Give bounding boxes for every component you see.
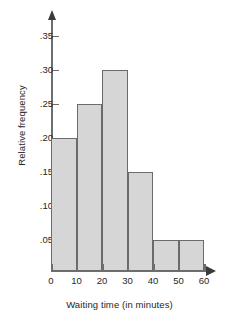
x-tick-label: 30: [115, 275, 141, 286]
histogram-bar: [179, 240, 205, 271]
y-tick-label: .10: [13, 200, 53, 211]
y-tick-mark: [52, 104, 59, 106]
x-tick-mark: [179, 264, 181, 271]
x-tick-label: 10: [64, 275, 90, 286]
x-tick-label: 50: [166, 275, 192, 286]
histogram-chart: .05 .10 .15 .20 .25 .30 .35 0 10 20 30 4…: [0, 0, 239, 325]
y-axis-title: Relative frequency: [16, 61, 27, 191]
x-tick-mark: [51, 264, 53, 271]
y-tick-mark: [52, 70, 59, 72]
histogram-bar: [128, 172, 154, 271]
histogram-bar: [51, 138, 77, 271]
x-axis-title: Waiting time (in minutes): [0, 299, 239, 310]
histogram-bar: [77, 104, 103, 271]
x-tick-label: 40: [140, 275, 166, 286]
y-tick-label: .35: [13, 30, 53, 41]
y-tick-label: .05: [13, 234, 53, 245]
x-tick-mark: [153, 264, 155, 271]
y-tick-mark: [52, 36, 59, 38]
x-tick-mark: [204, 264, 206, 271]
x-tick-mark: [77, 264, 79, 271]
histogram-bar: [153, 240, 179, 271]
x-tick-label: 20: [89, 275, 115, 286]
histogram-bar: [102, 70, 128, 271]
x-tick-label: 0: [38, 275, 64, 286]
x-tick-label: 60: [191, 275, 217, 286]
x-tick-mark: [102, 264, 104, 271]
y-axis-arrow-icon: [48, 10, 56, 20]
x-tick-mark: [128, 264, 130, 271]
